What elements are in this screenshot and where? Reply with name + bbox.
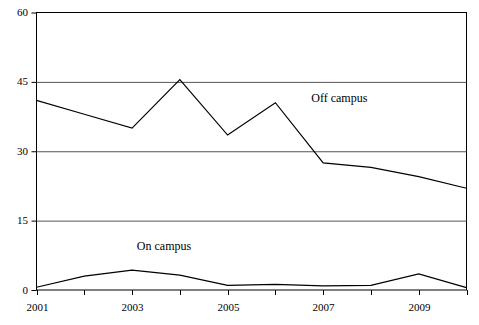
- y-tick-label: 0: [6, 285, 28, 296]
- x-axis-ticks: [38, 290, 468, 295]
- x-tick-label: 2009: [400, 302, 440, 313]
- x-tick-label: 2001: [18, 302, 58, 313]
- plot-area: [0, 0, 479, 325]
- series-label-off-campus: Off campus: [311, 92, 367, 104]
- y-tick-label: 30: [6, 146, 28, 157]
- series-label-on-campus: On campus: [137, 240, 191, 252]
- y-tick-label: 15: [6, 215, 28, 226]
- y-tick-label: 60: [6, 7, 28, 18]
- line-chart: 015304560 20012003200520072009 Off campu…: [0, 0, 479, 325]
- x-tick-label: 2005: [209, 302, 249, 313]
- y-axis-ticks: [32, 13, 37, 291]
- x-tick-label: 2007: [304, 302, 344, 313]
- y-tick-label: 45: [6, 76, 28, 87]
- x-tick-label: 2003: [113, 302, 153, 313]
